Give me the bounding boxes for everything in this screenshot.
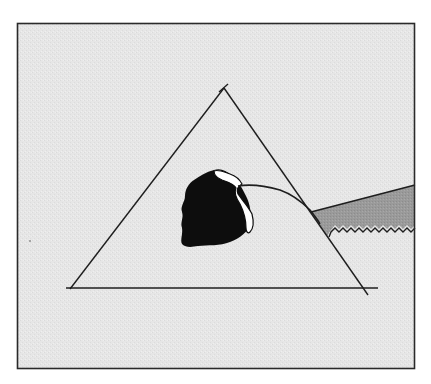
diagram-stage bbox=[0, 0, 431, 384]
speck bbox=[29, 240, 31, 242]
triangle-diagram bbox=[0, 0, 431, 384]
